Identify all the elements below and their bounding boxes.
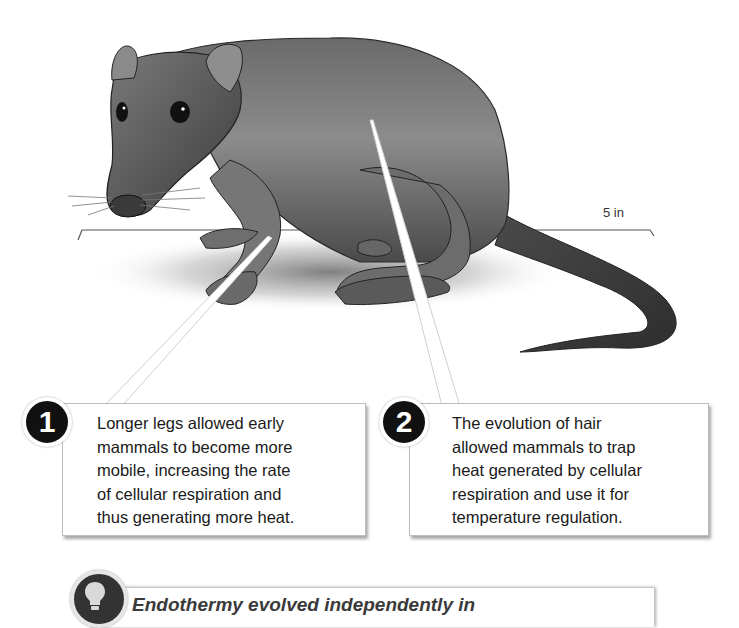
callout-1-line-5: thus generating more heat. [97,506,355,530]
step-2-badge: 2 [379,397,429,447]
callout-box-1: Longer legs allowed early mammals to bec… [62,403,366,536]
callout-2-line-1: The evolution of hair [452,412,698,436]
callout-box-2: The evolution of hair allowed mammals to… [409,403,709,536]
key-concept-banner: Endothermy evolved independently in [88,587,654,627]
nose [110,195,146,217]
callout-1-line-4: of cellular respiration and [97,483,355,507]
key-concept-text: Endothermy evolved independently in [132,594,475,615]
callout-2-line-5: temperature regulation. [452,506,698,530]
callout-2-line-3: heat generated by cellular [452,459,698,483]
callout-2-line-2: allowed mammals to trap [452,436,698,460]
eye-left [116,102,128,122]
callout-1-line-1: Longer legs allowed early [97,412,355,436]
callout-1-line-3: mobile, increasing the rate [97,459,355,483]
lightbulb-icon [70,570,128,628]
scale-bar-label: 5 in [603,205,624,220]
eye-right [170,101,190,123]
ear-left [112,46,138,80]
callout-2-line-4: respiration and use it for [452,483,698,507]
callout-1-line-2: mammals to become more [97,436,355,460]
step-1-badge: 1 [22,397,72,447]
